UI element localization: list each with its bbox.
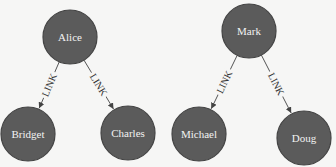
node-michael[interactable]: Michael xyxy=(172,107,226,161)
node-label: Charles xyxy=(111,127,145,139)
node-label: Alice xyxy=(58,31,82,43)
edge-mark-michael[interactable]: LINK xyxy=(211,55,237,109)
edge-label: LINK xyxy=(39,71,59,98)
node-charles[interactable]: Charles xyxy=(101,106,155,160)
node-bridget[interactable]: Bridget xyxy=(1,107,55,161)
node-label: Mark xyxy=(237,25,261,37)
edge-alice-bridget[interactable]: LINK xyxy=(38,62,60,109)
edge-alice-charles[interactable]: LINK xyxy=(84,60,114,109)
node-mark[interactable]: Mark xyxy=(222,4,276,58)
node-label: Doug xyxy=(292,132,317,144)
edge-mark-doug[interactable]: LINK xyxy=(261,55,291,113)
node-alice[interactable]: Alice xyxy=(43,10,97,64)
node-doug[interactable]: Doug xyxy=(277,111,331,165)
node-label: Michael xyxy=(181,128,217,140)
graph-canvas: LINKLINKLINKLINK AliceBridgetCharlesMark… xyxy=(0,0,336,167)
node-label: Bridget xyxy=(12,128,45,140)
